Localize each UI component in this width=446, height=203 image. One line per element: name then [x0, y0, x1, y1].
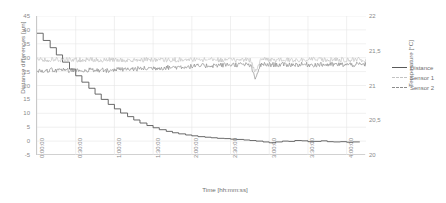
- y-tick-left: 35: [8, 41, 30, 47]
- legend-swatch-icon: [392, 77, 407, 79]
- legend-swatch-icon: [392, 87, 407, 89]
- y-tick-left: 5: [8, 124, 30, 130]
- legend-item[interactable]: Distance: [392, 63, 446, 73]
- x-axis-title: Time [hh:mm:ss]: [150, 186, 300, 193]
- y-tick-left: 0: [8, 138, 30, 144]
- y-tick-right: 21,5: [369, 48, 395, 54]
- plot-canvas: [37, 16, 366, 155]
- chart-figure: Distance differences [µm] Temperature [°…: [0, 0, 446, 203]
- y-tick-left: -5: [8, 152, 30, 158]
- plot-area: [36, 16, 365, 155]
- legend-label: Sensor 1: [410, 75, 434, 81]
- y-tick-left: 20: [8, 83, 30, 89]
- y-tick-left: 45: [8, 13, 30, 19]
- legend-swatch-icon: [392, 67, 407, 69]
- legend-label: Distance: [410, 65, 433, 71]
- y-tick-left: 25: [8, 69, 30, 75]
- y-tick-right: 22: [369, 13, 395, 19]
- y-tick-right: 20,5: [369, 117, 395, 123]
- y-tick-left: 40: [8, 27, 30, 33]
- y-tick-left: 15: [8, 96, 30, 102]
- legend-item[interactable]: Sensor 1: [392, 73, 446, 83]
- y-tick-left: 30: [8, 55, 30, 61]
- y-tick-right: 20: [369, 152, 395, 158]
- y-tick-left: 10: [8, 110, 30, 116]
- legend-label: Sensor 2: [410, 85, 434, 91]
- chart-legend: DistanceSensor 1Sensor 2: [392, 63, 446, 93]
- legend-item[interactable]: Sensor 2: [392, 83, 446, 93]
